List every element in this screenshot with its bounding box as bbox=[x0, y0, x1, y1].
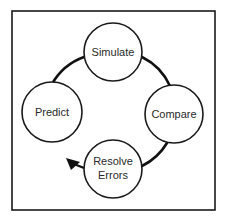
node-simulate: Simulate bbox=[84, 23, 142, 81]
node-label-simulate: Simulate bbox=[92, 46, 135, 58]
node-label-predict: Predict bbox=[35, 106, 69, 118]
node-predict: Predict bbox=[22, 82, 82, 142]
node-label-errors: Errors bbox=[98, 169, 128, 181]
cycle-diagram: Simulate Compare Resolve Errors Predict bbox=[0, 0, 227, 221]
node-resolve-errors: Resolve Errors bbox=[84, 140, 142, 198]
node-label-compare: Compare bbox=[151, 108, 196, 120]
node-label-resolve: Resolve bbox=[93, 155, 133, 167]
node-compare: Compare bbox=[145, 85, 203, 143]
